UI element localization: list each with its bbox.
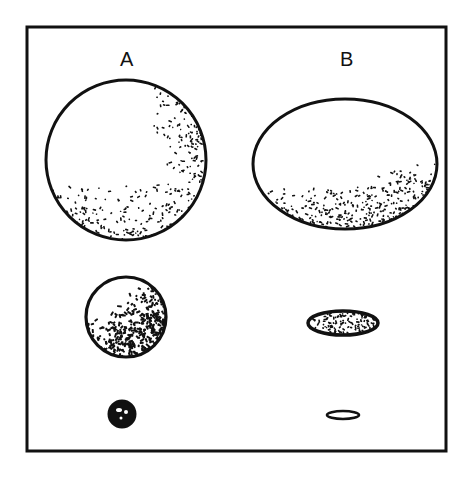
shape-b-large <box>253 99 437 229</box>
shape-a-large <box>46 80 206 240</box>
figure-frame <box>27 27 446 451</box>
shape-b-small <box>327 411 359 419</box>
diagram-figure: A B <box>0 0 476 477</box>
shapes-layer <box>46 80 437 427</box>
shape-a-small <box>109 401 135 427</box>
shape-a-medium <box>86 277 167 358</box>
column-label-a: A <box>120 48 133 71</box>
column-label-b: B <box>340 48 353 71</box>
shape-b-medium <box>308 310 378 337</box>
diagram-canvas <box>0 0 476 477</box>
